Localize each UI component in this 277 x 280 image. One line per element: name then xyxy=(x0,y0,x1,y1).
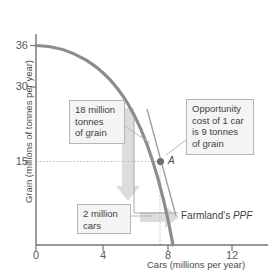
y-axis-title: Grain (millions of tonnes per year) xyxy=(23,42,34,222)
point-a-label: A xyxy=(168,155,175,166)
opportunity-cost-leader xyxy=(166,140,186,155)
data-point-a xyxy=(157,158,164,165)
x-axis-ticks xyxy=(36,245,232,251)
opportunity-cost-line4: of grain xyxy=(192,138,248,150)
ppf-owner-text: Farmland's xyxy=(181,210,233,221)
grain-callout-line1: 18 million xyxy=(75,104,119,116)
ppf-chart-figure: 36 30 15 0 4 8 12 Grain (millions of ton… xyxy=(0,0,277,280)
ppf-abbreviation-text: PPF xyxy=(233,210,252,221)
opportunity-cost-line2: cost of 1 car xyxy=(192,115,248,127)
x-axis-title: Cars (millions per year) xyxy=(147,259,245,270)
cars-callout-line1: 2 million xyxy=(83,208,125,220)
x-tick-label-0: 0 xyxy=(26,249,46,261)
opportunity-cost-line1: Opportunity xyxy=(192,103,248,115)
cars-callout-box: 2 million cars xyxy=(77,204,131,234)
grain-callout-line2: tonnes xyxy=(75,116,119,128)
cars-callout-line2: cars xyxy=(83,220,125,232)
ppf-curve-label: Farmland's PPF xyxy=(181,210,252,221)
grain-callout-box: 18 million tonnes of grain xyxy=(69,100,125,144)
grain-callout-line3: of grain xyxy=(75,127,119,139)
opportunity-cost-callout-box: Opportunity cost of 1 car is 9 tonnes of… xyxy=(186,99,254,155)
x-tick-label-4: 4 xyxy=(93,249,113,261)
opportunity-cost-line3: is 9 tonnes xyxy=(192,126,248,138)
